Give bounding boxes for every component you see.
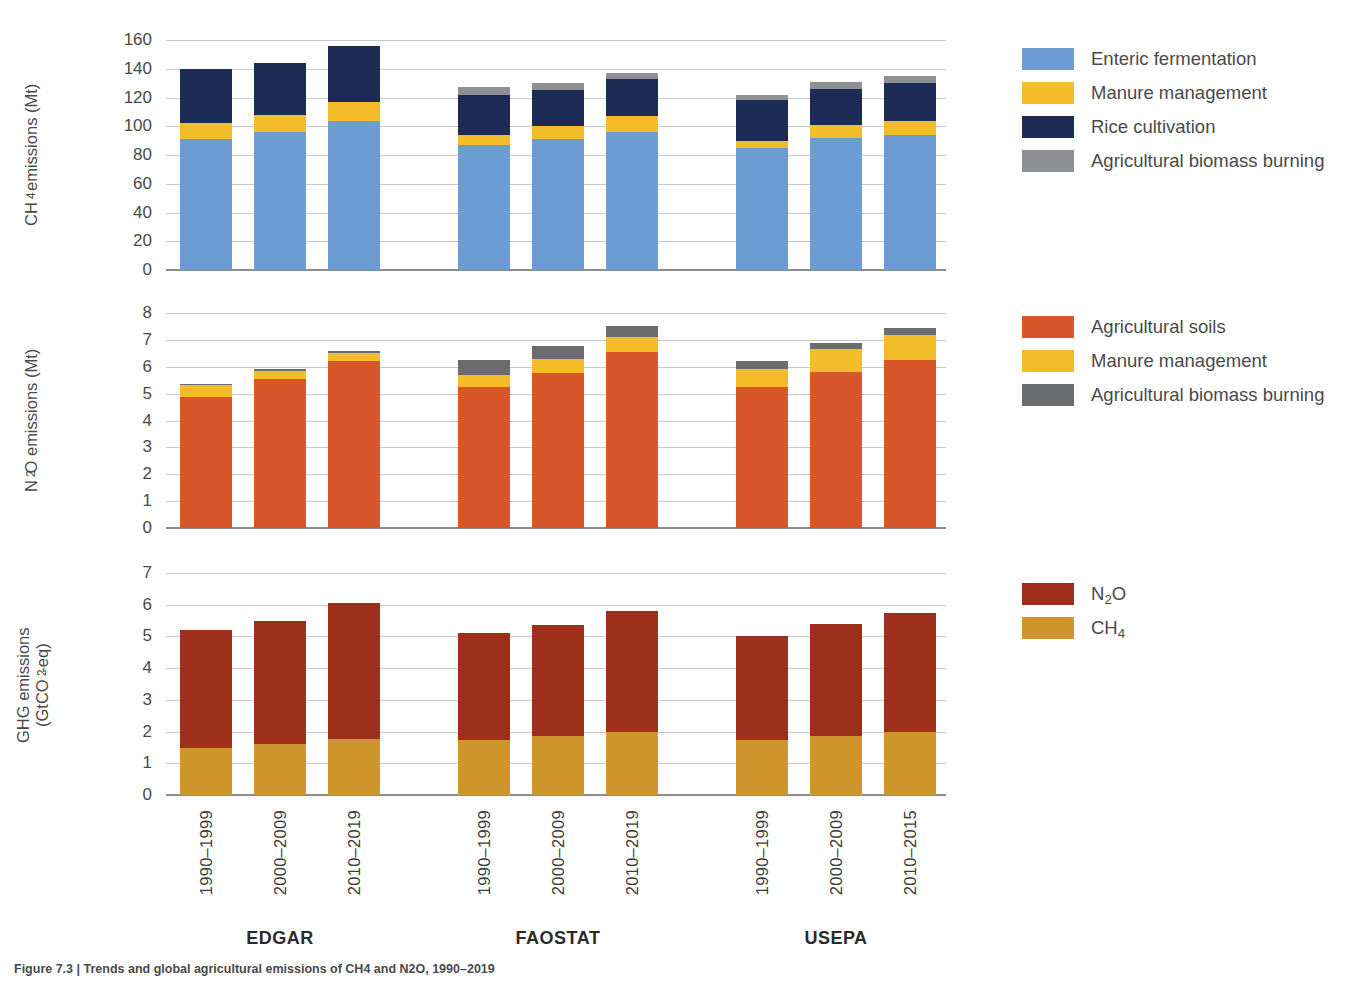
bar-segment: [810, 82, 862, 89]
bar-ch4[interactable]: [180, 69, 232, 270]
bar-ch4[interactable]: [884, 76, 936, 270]
bar-n2o[interactable]: [458, 360, 510, 528]
bar-n2o[interactable]: [532, 346, 584, 528]
bar-ghg[interactable]: [328, 603, 380, 795]
bar-segment: [458, 360, 510, 375]
bar-n2o[interactable]: [884, 328, 936, 528]
bar-segment: [458, 135, 510, 145]
x-tick-label: 2000–2009: [827, 810, 846, 895]
bar-n2o[interactable]: [328, 351, 380, 528]
legend-label: Agricultural biomass burning: [1091, 150, 1324, 172]
gridline: [166, 605, 946, 606]
legend-item[interactable]: Agricultural biomass burning: [1022, 144, 1324, 178]
bar-segment: [254, 379, 306, 528]
bar-segment: [736, 100, 788, 140]
bar-segment: [532, 359, 584, 372]
gridline: [166, 40, 946, 41]
y-tick-label: 3: [143, 690, 152, 710]
bar-segment: [532, 625, 584, 736]
bar-segment: [254, 132, 306, 270]
y-tick-label: 3: [143, 437, 152, 457]
bar-segment: [736, 636, 788, 739]
bar-ch4[interactable]: [458, 87, 510, 270]
figure-container: CH4 emissions (Mt) 020406080100120140160…: [0, 0, 1357, 985]
legend-label: Agricultural soils: [1091, 316, 1226, 338]
bar-ghg[interactable]: [810, 624, 862, 795]
legend-swatch-icon: [1022, 116, 1074, 138]
bar-segment: [458, 740, 510, 795]
bar-segment: [180, 123, 232, 139]
bar-n2o[interactable]: [180, 384, 232, 528]
axis-title-n2o-text: N2O emissions (Mt): [22, 349, 40, 492]
bar-ghg[interactable]: [884, 613, 936, 795]
x-group-label-faostat: FAOSTAT: [516, 928, 601, 949]
x-tick-label: 2000–2009: [549, 810, 568, 895]
legend-label: N2O: [1091, 583, 1126, 605]
legend-item[interactable]: Enteric fermentation: [1022, 42, 1324, 76]
bar-segment: [458, 87, 510, 94]
yticks-ghg: 01234567: [100, 573, 152, 795]
bar-segment: [606, 337, 658, 352]
legend-label: Enteric fermentation: [1091, 48, 1257, 70]
legend-item[interactable]: Rice cultivation: [1022, 110, 1324, 144]
bar-ch4[interactable]: [606, 73, 658, 270]
bar-ghg[interactable]: [532, 625, 584, 795]
y-tick-label: 6: [143, 595, 152, 615]
bar-segment: [810, 349, 862, 372]
bar-segment: [458, 387, 510, 528]
bar-segment: [606, 116, 658, 132]
bar-segment: [884, 360, 936, 528]
legend-swatch-icon: [1022, 617, 1074, 639]
legend-swatch-icon: [1022, 150, 1074, 172]
y-tick-label: 0: [143, 785, 152, 805]
y-tick-label: 5: [143, 384, 152, 404]
legend-item[interactable]: Manure management: [1022, 76, 1324, 110]
bar-segment: [810, 624, 862, 737]
bar-segment: [254, 115, 306, 132]
bar-segment: [532, 126, 584, 139]
bar-n2o[interactable]: [810, 343, 862, 528]
bar-segment: [180, 385, 232, 397]
bar-segment: [458, 95, 510, 135]
legend-item[interactable]: Manure management: [1022, 344, 1324, 378]
x-group-label-edgar: EDGAR: [246, 928, 314, 949]
legend-item[interactable]: Agricultural soils: [1022, 310, 1324, 344]
bar-segment: [254, 744, 306, 795]
bar-segment: [736, 148, 788, 270]
legend-item[interactable]: N2O: [1022, 577, 1126, 611]
bar-segment: [884, 613, 936, 733]
bar-ch4[interactable]: [532, 83, 584, 270]
bar-segment: [532, 373, 584, 528]
bar-segment: [606, 73, 658, 79]
bar-segment: [328, 46, 380, 102]
legend-n2o: Agricultural soilsManure managementAgric…: [1022, 310, 1324, 412]
legend-swatch-icon: [1022, 583, 1074, 605]
bar-ghg[interactable]: [736, 636, 788, 795]
bar-ghg[interactable]: [180, 630, 232, 795]
bar-ch4[interactable]: [736, 95, 788, 270]
bar-ghg[interactable]: [458, 633, 510, 795]
legend-item[interactable]: Agricultural biomass burning: [1022, 378, 1324, 412]
x-tick-label: 1990–1999: [753, 810, 772, 895]
bar-segment: [884, 335, 936, 361]
x-tick-label: 2000–2009: [271, 810, 290, 895]
legend-item[interactable]: CH4: [1022, 611, 1126, 645]
legend-label: Manure management: [1091, 350, 1267, 372]
legend-label: Manure management: [1091, 82, 1267, 104]
bar-ghg[interactable]: [254, 621, 306, 795]
y-tick-label: 1: [143, 491, 152, 511]
bar-ch4[interactable]: [810, 82, 862, 270]
bar-ghg[interactable]: [606, 611, 658, 795]
bar-n2o[interactable]: [606, 326, 658, 528]
axis-title-ghg-text: GHG emissions(GtCO2-eq): [14, 627, 51, 743]
bar-n2o[interactable]: [736, 361, 788, 528]
bar-segment: [810, 736, 862, 795]
bar-ch4[interactable]: [328, 46, 380, 270]
bar-segment: [736, 95, 788, 101]
x-tick-label: 1990–1999: [475, 810, 494, 895]
bar-segment: [606, 732, 658, 795]
bar-n2o[interactable]: [254, 369, 306, 528]
bar-segment: [532, 139, 584, 270]
bar-ch4[interactable]: [254, 63, 306, 270]
bar-segment: [606, 352, 658, 528]
